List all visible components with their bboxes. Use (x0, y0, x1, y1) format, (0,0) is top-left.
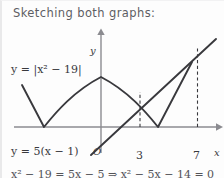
x-axis-label: x (214, 147, 220, 158)
graph-figure: y x O 3 7 (2, 19, 224, 161)
x-tick-3: 3 (136, 149, 143, 162)
line-equation-label: y = 5(x − 1) (11, 145, 78, 158)
worked-solution-panel: Sketching both graphs: y x O 3 7 y = |x²… (0, 0, 224, 178)
x-tick-7: 7 (193, 149, 200, 162)
y-axis-arrow (97, 29, 104, 36)
footer-equation: x² − 19 = 5x − 5 ⇒ x² − 5x − 14 = 0 (11, 168, 214, 178)
graph-svg (2, 19, 224, 161)
page-title: Sketching both graphs: (13, 6, 155, 20)
x-axis-arrow (216, 123, 223, 131)
curve-equation-label: y = |x² − 19| (11, 63, 82, 76)
origin-label: O (93, 146, 101, 157)
y-axis-label: y (90, 45, 96, 56)
